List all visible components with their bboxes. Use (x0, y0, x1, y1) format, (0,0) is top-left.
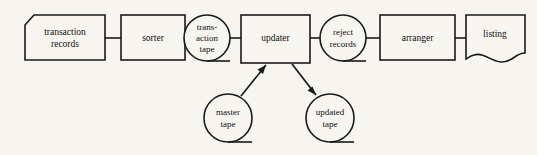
magnetic-tape-icon (204, 94, 252, 142)
node-transaction-tape[interactable]: trans- action tape (184, 15, 230, 61)
transaction-records-label-line2: records (51, 39, 79, 49)
node-updated-tape[interactable]: updated tape (306, 94, 354, 142)
punched-card-icon (25, 15, 105, 60)
arrow-master-tape-to-updater (241, 65, 266, 96)
transaction-tape-label-line2: action (196, 33, 218, 43)
transaction-tape-label-line3: tape (200, 44, 215, 54)
arranger-label: arranger (402, 33, 434, 43)
master-tape-label-line2: tape (221, 119, 236, 129)
node-reject-records[interactable]: reject records (320, 15, 366, 61)
updater-label: updater (261, 33, 290, 43)
flowchart-svg: transaction records sorter trans- action… (0, 0, 537, 155)
reject-records-label-line1: reject (333, 27, 353, 37)
arrow-updater-to-updated-tape (292, 64, 316, 95)
listing-label: listing (483, 29, 507, 39)
magnetic-tape-icon (320, 15, 366, 61)
transaction-tape-label-line1: trans- (197, 22, 218, 32)
updated-tape-label-line2: tape (323, 119, 338, 129)
master-tape-label-line1: master (216, 107, 240, 117)
magnetic-tape-icon (306, 94, 354, 142)
flowchart-canvas: transaction records sorter trans- action… (0, 0, 537, 155)
node-transaction-records[interactable]: transaction records (25, 15, 105, 60)
sorter-label: sorter (142, 33, 164, 43)
transaction-records-label-line1: transaction (44, 27, 86, 37)
arrow-head (308, 87, 317, 96)
updated-tape-label-line1: updated (316, 107, 345, 117)
node-arranger[interactable]: arranger (380, 15, 455, 60)
node-listing[interactable]: listing (466, 15, 525, 62)
node-sorter[interactable]: sorter (121, 15, 185, 60)
node-updater[interactable]: updater (241, 15, 310, 63)
reject-records-label-line2: records (330, 39, 357, 49)
node-master-tape[interactable]: master tape (204, 94, 252, 142)
